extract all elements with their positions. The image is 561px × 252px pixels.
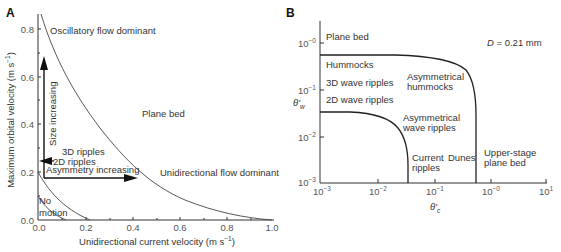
x-tick-label: 1.0 [265, 222, 278, 233]
y-tick-label: 10−0 [298, 37, 316, 49]
panel-a-x-ticks: 0.0 0.2 0.4 0.6 0.8 1.0 [32, 217, 278, 233]
panel-a-y-axis-title: Maximum orbital velocity (m s−1) [4, 52, 16, 188]
wave-current-ripple-boundary-curve [320, 112, 408, 183]
panel-a-label: A [6, 6, 15, 20]
x-tick-label: 0.6 [173, 222, 186, 233]
x-tick-label: 0.4 [126, 222, 139, 233]
y-tick-label: 0.4 [21, 119, 34, 130]
y-tick-label: 10−2 [298, 131, 316, 143]
x-tick-label: 10−3 [313, 185, 331, 197]
wave-ripples-3d-label: 3D wave ripples [326, 77, 394, 88]
x-tick-label: 0.8 [220, 222, 233, 233]
oscillatory-flow-dominant-label: Oscillatory flow dominant [50, 25, 156, 36]
x-tick-label: 10−1 [426, 185, 444, 197]
dunes-label: Dunes [448, 152, 476, 163]
plane-bed-label: Plane bed [142, 108, 185, 119]
panel-b-y-axis-title: θ'w [293, 97, 306, 110]
x-tick-label: 0.2 [79, 222, 92, 233]
figure: A 0.0 0.2 0.4 0.6 0.8 [0, 0, 561, 252]
x-tick-label: 10−2 [369, 185, 387, 197]
y-tick-label: 0.8 [21, 24, 34, 35]
panel-b-x-ticks: 10−3 10−2 10−1 10−0 101 [313, 179, 553, 197]
panel-b-x-axis-title: θ'c [430, 201, 441, 214]
asymmetry-increasing-arrow [44, 174, 138, 182]
panel-a: A 0.0 0.2 0.4 0.6 0.8 [4, 6, 279, 247]
current-ripples-label-2: ripples [412, 162, 440, 173]
size-increasing-label: Size increasing [47, 82, 58, 146]
no-motion-label-2: motion [39, 207, 68, 218]
y-tick-label: 0.6 [21, 72, 34, 83]
plane-bed-label: Plane bed [326, 31, 369, 42]
no-motion-label-1: No [39, 195, 51, 206]
hummocks-label: Hummocks [326, 59, 374, 70]
panel-b-label: B [286, 6, 295, 20]
panel-a-x-axis-title: Unidirectional current velocity (m s−1) [79, 235, 235, 247]
y-tick-label: 10−1 [298, 84, 316, 96]
x-tick-label: 101 [539, 185, 554, 197]
asymmetrical-hummocks-label-2: hummocks [407, 81, 453, 92]
ripples-2d-label: 2D ripples [53, 156, 96, 167]
upper-stage-plane-bed-label-2: plane bed [484, 157, 526, 168]
wave-ripples-2d-label: 2D wave ripples [326, 94, 394, 105]
x-tick-label: 10−0 [482, 185, 500, 197]
grain-size-label: D = 0.21 mm [487, 37, 542, 48]
unidirectional-flow-dominant-label: Unidirectional flow dominant [160, 167, 279, 178]
asymmetrical-wave-ripples-label-2: wave ripples [402, 122, 456, 133]
x-tick-label: 0.0 [32, 222, 45, 233]
panel-b: B 10−0 10−1 10−2 10−3 10−3 10−2 10−1 10−… [286, 6, 553, 214]
y-tick-label: 0.2 [21, 167, 34, 178]
